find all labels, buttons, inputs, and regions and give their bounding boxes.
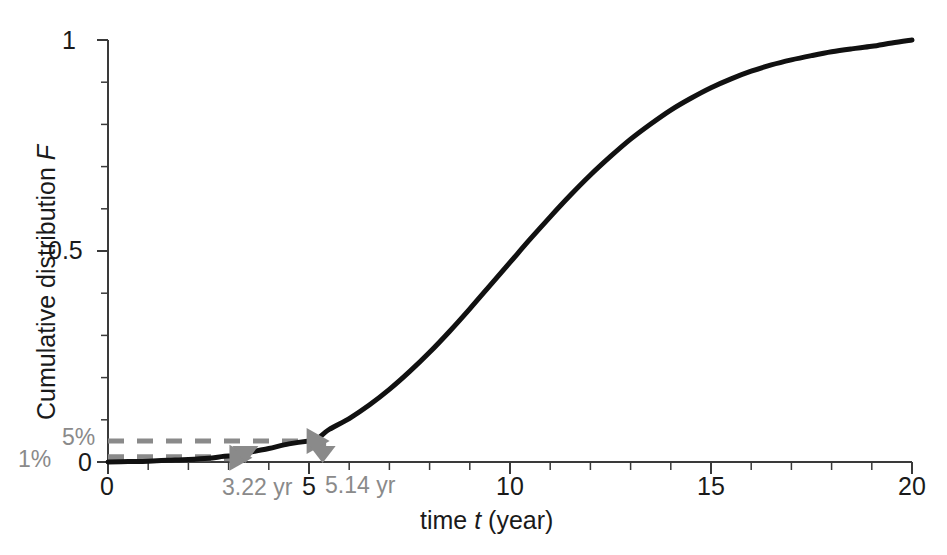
x-tick-label-15: 15 [697, 474, 725, 499]
y-tick-label-0: 0 [78, 450, 92, 475]
cdf-curve [108, 40, 912, 462]
x-axis-title: time t (year) [420, 508, 553, 533]
y-tick-label-1: 1 [62, 28, 76, 53]
x-axis-title-suffix: (year) [481, 506, 553, 534]
y-axis-title-variable: F [32, 145, 60, 160]
annotation-label-5-percent: 5% [62, 426, 95, 449]
annotation-label-3-22-yr: 3.22 yr [222, 476, 292, 499]
axis-lines [108, 40, 912, 462]
x-tick-label-10: 10 [496, 474, 524, 499]
chart-figure: 1 0.5 0 0 5 10 15 20 5% 1% 3.22 yr 5.14 … [0, 0, 947, 555]
x-tick-label-0: 0 [100, 474, 114, 499]
x-axis-title-prefix: time [420, 506, 474, 534]
y-axis-ticks [97, 40, 108, 462]
y-axis-title-prefix: Cumulative distribution [32, 160, 60, 420]
y-axis-title: Cumulative distribution F [34, 145, 59, 420]
x-tick-label-20: 20 [898, 474, 926, 499]
annotation-label-5-14-yr: 5.14 yr [325, 474, 395, 497]
x-tick-label-5: 5 [302, 474, 316, 499]
annotation-label-1-percent: 1% [18, 448, 51, 471]
cdf-plot [0, 0, 947, 555]
